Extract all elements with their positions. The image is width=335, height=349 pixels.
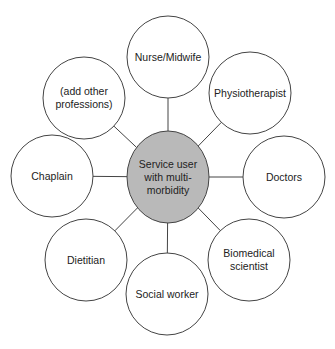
node-label-physiotherapist: Physiotherapist [214, 87, 286, 100]
node-label-social-worker: Social worker [135, 288, 198, 301]
node-label-doctors: Doctors [266, 171, 302, 184]
node-label-add-other-professions: (add other professions) [55, 85, 112, 111]
connector-line-biomedical-scientist [198, 208, 220, 231]
connector-line-add-other-professions [114, 126, 137, 147]
node-label-chaplain: Chaplain [31, 170, 72, 183]
connector-line-dietitian [115, 208, 138, 231]
node-label-biomedical-scientist: Biomedical scientist [223, 247, 274, 273]
hub-label: Service user with multi- morbidity [139, 158, 197, 197]
node-label-dietitian: Dietitian [67, 254, 105, 267]
node-label-nurse-midwife: Nurse/Midwife [135, 51, 202, 64]
connector-line-physiotherapist [198, 122, 221, 146]
